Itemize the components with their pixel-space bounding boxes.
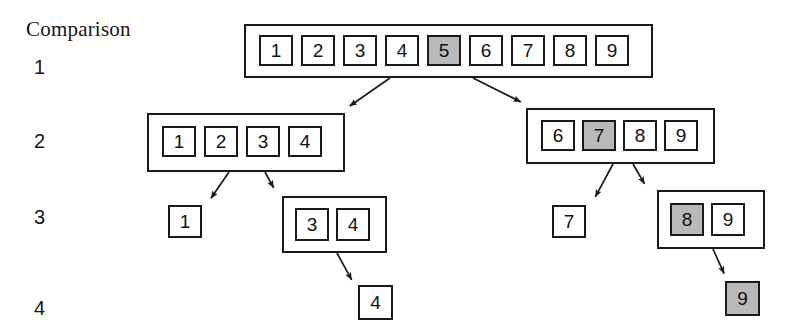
arrow-right2-to-89 <box>633 164 645 184</box>
array-cell-root-6: 6 <box>469 35 503 66</box>
array-cell-root-9: 9 <box>595 35 629 66</box>
comparison-row-label-3: 3 <box>34 206 45 229</box>
array-cell-right-4-9: 9 <box>725 281 760 316</box>
array-cell-left-2-2: 2 <box>204 126 238 157</box>
arrow-box34-to-4 <box>337 253 352 280</box>
array-cell-root-8: 8 <box>553 35 587 66</box>
array-cell-left-3-b-4: 4 <box>336 208 370 241</box>
array-cell-right-3-b-8: 8 <box>670 203 704 236</box>
array-cell-right-2-9: 9 <box>664 120 698 151</box>
arrow-root-to-left2 <box>350 78 390 106</box>
array-cell-left-3-b-3: 3 <box>295 208 329 241</box>
arrow-right2-to-7 <box>595 164 613 197</box>
array-cell-right-2-7: 7 <box>582 120 616 151</box>
array-cell-right-2-6: 6 <box>541 120 575 151</box>
array-cell-root-5: 5 <box>427 35 461 66</box>
array-cell-left-2-1: 1 <box>162 126 196 157</box>
array-cell-right-2-8: 8 <box>623 120 657 151</box>
diagram-title: Comparison <box>26 17 131 42</box>
arrow-left2-to-34 <box>265 172 274 188</box>
array-cell-left-4-4: 4 <box>358 285 393 320</box>
array-cell-left-2-4: 4 <box>288 126 322 157</box>
array-cell-root-2: 2 <box>301 35 335 66</box>
array-cell-right-3-b-9: 9 <box>711 203 745 236</box>
arrow-root-to-right2 <box>473 78 521 102</box>
comparison-row-label-4: 4 <box>34 297 45 320</box>
arrow-left2-to-1 <box>211 172 229 198</box>
array-cell-left-2-3: 3 <box>246 126 280 157</box>
array-cell-left-3-a-1: 1 <box>168 205 202 238</box>
array-cell-root-7: 7 <box>511 35 545 66</box>
array-cell-right-3-a-7: 7 <box>552 205 586 238</box>
comparison-row-label-1: 1 <box>34 56 45 79</box>
binary-search-diagram: Comparison 1234 123456789123467891347894… <box>0 0 799 336</box>
array-cell-root-4: 4 <box>385 35 419 66</box>
comparison-row-label-2: 2 <box>34 130 45 153</box>
arrow-box89-to-9 <box>713 249 724 274</box>
array-cell-root-1: 1 <box>259 35 293 66</box>
array-cell-root-3: 3 <box>343 35 377 66</box>
